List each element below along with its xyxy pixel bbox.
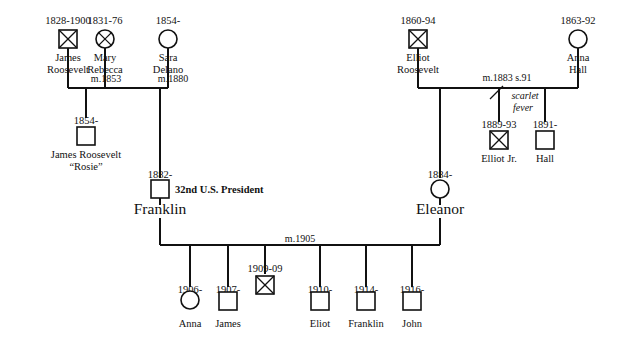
mary-rebecca-symbol-crossed-circle bbox=[96, 30, 114, 48]
elliot-jr-name: Elliot Jr. bbox=[481, 153, 517, 164]
hall-symbol-square bbox=[536, 131, 554, 149]
james-roosevelt-dates: 1828-1900 bbox=[45, 15, 91, 26]
eleanor-symbol-circle bbox=[431, 180, 449, 198]
john-symbol-square bbox=[403, 292, 421, 310]
hall-name: Hall bbox=[536, 153, 554, 164]
marriage-franklin-eleanor-label: m.1905 bbox=[285, 233, 315, 244]
marriage-elliot-anna: m.1883 s.91 bbox=[418, 48, 578, 88]
eleanor-dates: 1884- bbox=[428, 169, 453, 180]
eliot-symbol-square bbox=[311, 292, 329, 310]
marriage-james-sara-label: m.1880 bbox=[158, 73, 188, 84]
rosie-dates: 1854- bbox=[74, 115, 99, 126]
franklin-jr-symbol-square bbox=[357, 292, 375, 310]
elliot-jr-dates: 1889-93 bbox=[482, 119, 517, 130]
james-roosevelt-symbol-crossed-square bbox=[59, 30, 77, 48]
franklin-symbol-square bbox=[151, 180, 169, 198]
anna-symbol-circle bbox=[181, 291, 199, 309]
infant-dates: 1909-09 bbox=[248, 263, 283, 274]
franklin-dates: 1882- bbox=[148, 169, 173, 180]
franklin-jr-name: Franklin bbox=[348, 318, 384, 329]
scarlet-fever-note-line1: scarlet bbox=[511, 90, 538, 101]
anna-name: Anna bbox=[179, 318, 202, 329]
hall-dates: 1891- bbox=[533, 119, 558, 130]
family-tree-diagram: 1828-1900 James Roosevelt 1831-76 Mary R… bbox=[0, 0, 618, 357]
scarlet-fever-note-line2: fever bbox=[513, 102, 533, 113]
marriage-elliot-anna-label: m.1883 s.91 bbox=[482, 72, 531, 83]
james-child-name: James bbox=[215, 318, 241, 329]
rosie-name-line2: “Rosie” bbox=[69, 161, 103, 172]
rosie-symbol-square bbox=[77, 127, 95, 145]
marriage-james-mary: m.1853 bbox=[68, 73, 121, 88]
franklin-president-badge: 32nd U.S. President bbox=[175, 184, 264, 195]
marriage-franklin-eleanor: m.1905 bbox=[160, 233, 440, 245]
anna-hall-symbol-circle bbox=[569, 30, 587, 48]
sara-delano-dates: 1854- bbox=[156, 15, 181, 26]
eliot-name: Eliot bbox=[310, 318, 330, 329]
anna-hall-dates: 1863-92 bbox=[561, 15, 596, 26]
marriage-james-mary-label: m.1853 bbox=[91, 73, 121, 84]
elliot-jr-symbol-crossed-square bbox=[490, 131, 508, 149]
sara-delano-symbol-circle bbox=[159, 30, 177, 48]
elliot-roosevelt-dates: 1860-94 bbox=[401, 15, 437, 26]
john-name: John bbox=[402, 318, 423, 329]
family-tree-canvas: 1828-1900 James Roosevelt 1831-76 Mary R… bbox=[0, 0, 618, 357]
elliot-roosevelt-symbol-crossed-square bbox=[409, 30, 427, 48]
rosie-name-line1: James Roosevelt bbox=[51, 149, 121, 160]
james-child-symbol-square bbox=[219, 292, 237, 310]
mary-rebecca-dates: 1831-76 bbox=[88, 15, 123, 26]
infant-symbol-crossed-square bbox=[256, 276, 274, 294]
